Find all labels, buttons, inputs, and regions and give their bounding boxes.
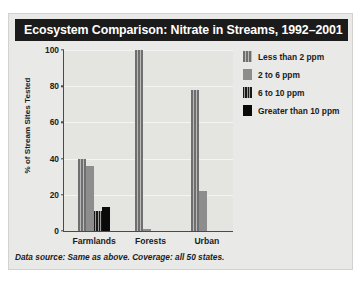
chart-footnote: Data source: Same as above. Coverage: al… (15, 252, 348, 262)
bar (135, 50, 143, 231)
bar (191, 90, 199, 231)
x-axis-label-farmlands: Farmlands (72, 236, 115, 246)
y-axis-tick-mark (61, 49, 64, 50)
plot-container: % of Stream Sites Tested 020406080100Far… (15, 43, 348, 243)
y-axis-tick-label: 20 (50, 190, 59, 200)
bar-group-forests: Forests (135, 50, 167, 231)
y-axis-tick-label: 100 (45, 45, 59, 55)
legend-swatch-icon (243, 87, 252, 98)
y-axis-tick-mark (61, 85, 64, 86)
y-axis-tick-mark (61, 122, 64, 123)
legend-label: Greater than 10 ppm (258, 106, 339, 116)
y-axis-tick-mark (61, 194, 64, 195)
y-axis-tick-mark (61, 158, 64, 159)
y-axis-tick-label: 0 (54, 226, 59, 236)
bar-group-farmlands: Farmlands (78, 50, 110, 231)
legend-swatch-icon (243, 51, 252, 62)
plot-area: 020406080100FarmlandsForestsUrban (63, 50, 233, 232)
y-axis-tick-label: 60 (50, 117, 59, 127)
bar (94, 211, 102, 231)
bar-group-urban: Urban (191, 50, 223, 231)
y-axis-title: % of Stream Sites Tested (23, 66, 32, 186)
chart-legend: Less than 2 ppm2 to 6 ppm6 to 10 ppmGrea… (243, 51, 348, 123)
bar (86, 166, 94, 231)
bar (143, 229, 151, 231)
legend-item[interactable]: Greater than 10 ppm (243, 105, 348, 116)
y-axis-tick-label: 40 (50, 154, 59, 164)
legend-item[interactable]: Less than 2 ppm (243, 51, 348, 62)
bar (199, 191, 207, 231)
chart-card: Ecosystem Comparison: Nitrate in Streams… (8, 13, 353, 270)
y-axis-tick-mark (61, 230, 64, 231)
x-axis-label-urban: Urban (194, 236, 219, 246)
legend-swatch-icon (243, 69, 252, 80)
legend-swatch-icon (243, 105, 252, 116)
legend-label: Less than 2 ppm (258, 52, 324, 62)
legend-label: 2 to 6 ppm (258, 70, 300, 80)
legend-item[interactable]: 2 to 6 ppm (243, 69, 348, 80)
legend-item[interactable]: 6 to 10 ppm (243, 87, 348, 98)
chart-title-bar: Ecosystem Comparison: Nitrate in Streams… (15, 19, 348, 41)
bar (78, 159, 86, 231)
bar (102, 207, 110, 231)
y-axis-tick-label: 80 (50, 81, 59, 91)
x-axis-label-forests: Forests (135, 236, 166, 246)
legend-label: 6 to 10 ppm (258, 88, 305, 98)
page-title: Ecosystem Comparison: Nitrate in Streams… (15, 23, 343, 37)
